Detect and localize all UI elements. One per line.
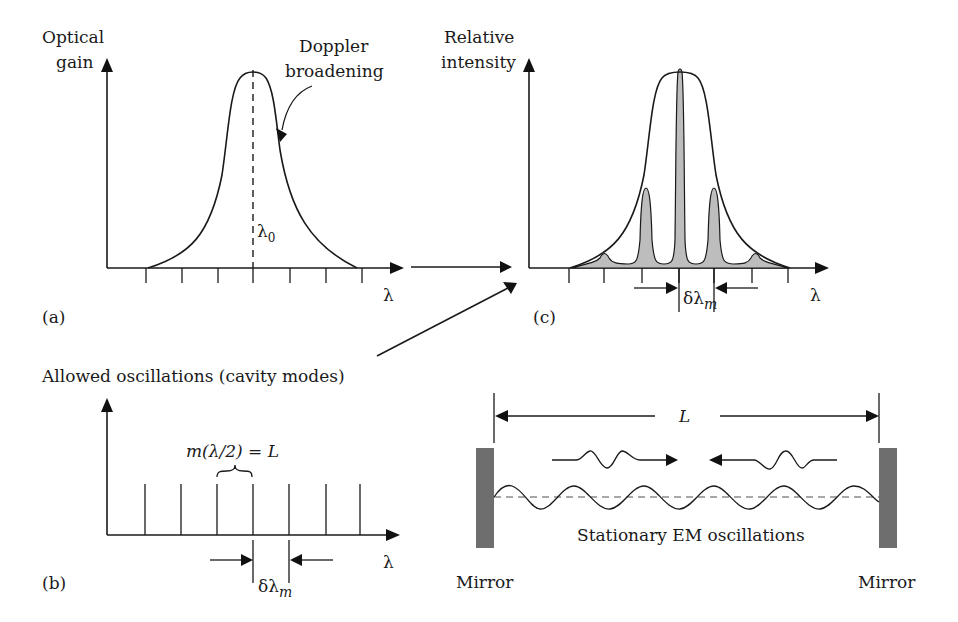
- panel-b-spacing-label: δλm: [258, 576, 292, 600]
- optical-cavity: L Stationary EM oscillations Mirror Mirr…: [456, 393, 916, 592]
- panel-c-spacing-arrow-left-icon: [715, 282, 727, 294]
- panel-c-y-axis-arrow-icon: [523, 58, 535, 72]
- panel-c-y-label-line1: Relative: [444, 27, 514, 47]
- panel-a-gain-curve: Optical gain λ0 Doppler broadening λ (a): [42, 27, 404, 327]
- panel-b-x-label: λ: [383, 552, 394, 572]
- panel-a-tag: (a): [42, 307, 65, 327]
- left-mirror-label: Mirror: [456, 572, 514, 592]
- panel-b-brace: [217, 465, 252, 477]
- panel-b-spacing-arrow-right-icon: [241, 554, 253, 566]
- panel-b-x-axis-arrow-icon: [386, 529, 400, 541]
- panel-c-mode-spectrum: [572, 69, 788, 268]
- panel-a-lambda0-label: λ0: [257, 221, 275, 245]
- cavity-caption: Stationary EM oscillations: [577, 525, 805, 545]
- panel-connectors: [377, 261, 517, 356]
- panel-a-y-label-line1: Optical: [42, 27, 104, 47]
- laser-modes-diagram: Optical gain λ0 Doppler broadening λ (a): [0, 0, 958, 622]
- panel-c-spacing-marker: δλm: [634, 268, 758, 312]
- panel-b-spacing-arrow-left-icon: [290, 554, 302, 566]
- wave-packet-right-arrow-icon: [666, 454, 678, 466]
- panel-b-tag: (b): [42, 573, 66, 593]
- panel-c-spacing-arrow-right-icon: [666, 282, 678, 294]
- panel-b-title: Allowed oscillations (cavity modes): [41, 366, 345, 386]
- connector-b-to-c-arrow-icon: [503, 282, 517, 294]
- panel-b-spacing-marker: δλm: [210, 540, 333, 600]
- panel-b-cavity-modes: Allowed oscillations (cavity modes) m(λ/…: [41, 366, 400, 600]
- wave-packet-right: [552, 451, 666, 468]
- panel-a-annotation-pointer: [282, 86, 312, 130]
- right-mirror-label: Mirror: [858, 572, 916, 592]
- panel-a-x-label: λ: [383, 285, 394, 305]
- cavity-length-arrow-right-icon: [866, 410, 879, 422]
- panel-c-spacing-label: δλm: [683, 288, 717, 312]
- panel-a-y-label-line2: gain: [56, 52, 93, 72]
- panel-a-annotation-line2: broadening: [285, 61, 384, 81]
- panel-c-output-spectrum: Relative intensity δλm: [441, 27, 829, 327]
- connector-a-to-c-arrow-icon: [500, 261, 512, 273]
- panel-a-annotation-line1: Doppler: [299, 36, 369, 56]
- panel-c-y-label-line2: intensity: [441, 52, 516, 72]
- panel-c-x-label: λ: [810, 285, 821, 305]
- panel-b-formula: m(λ/2) = L: [186, 441, 279, 461]
- connector-b-to-c: [377, 288, 508, 356]
- panel-b-mode-lines: [145, 484, 360, 535]
- panel-a-ticks: [146, 268, 362, 283]
- cavity-length-label: L: [678, 406, 690, 426]
- wave-packet-left: [722, 451, 837, 469]
- left-mirror: [476, 448, 494, 548]
- panel-c-tag: (c): [533, 307, 556, 327]
- panel-a-y-axis-arrow-icon: [101, 58, 113, 72]
- panel-b-y-axis-arrow-icon: [101, 398, 113, 412]
- panel-a-x-axis-arrow-icon: [390, 262, 404, 274]
- cavity-length-arrow-left-icon: [495, 410, 508, 422]
- right-mirror: [879, 448, 897, 548]
- wave-packet-left-arrow-icon: [709, 454, 722, 466]
- panel-c-x-axis-arrow-icon: [815, 262, 829, 274]
